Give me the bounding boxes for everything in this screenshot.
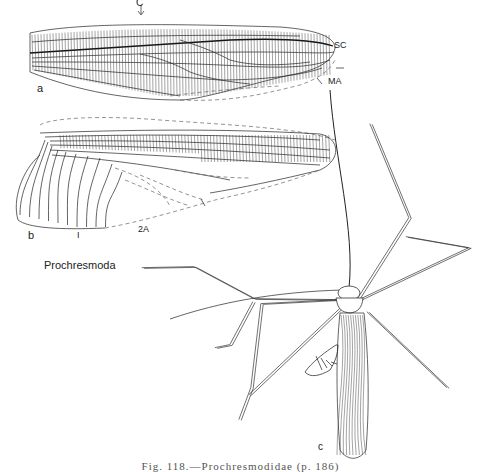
crossvein: [206, 29, 207, 95]
crossvein: [155, 29, 156, 95]
hindwing-reconstructed-margin: [105, 170, 320, 228]
crossvein: [121, 135, 122, 150]
crossvein: [70, 135, 71, 148]
crossvein: [102, 135, 103, 150]
crossvein: [107, 30, 108, 85]
crossvein: [179, 29, 180, 96]
crossvein: [60, 135, 61, 148]
crossvein: [89, 135, 90, 149]
crossvein: [191, 135, 192, 153]
wing-vein: [346, 315, 350, 455]
genus-label: Prochresmoda: [44, 259, 116, 271]
crossvein: [176, 29, 177, 96]
crossvein: [223, 135, 224, 162]
insect-abdomen: [305, 345, 338, 376]
anal-vein: [30, 142, 49, 217]
crossvein: [62, 33, 63, 77]
crossvein: [98, 31, 99, 84]
crossvein: [191, 29, 192, 96]
anal-vein: [77, 156, 88, 227]
crossvein: [173, 29, 174, 96]
crossvein: [140, 135, 141, 151]
anal-vein: [67, 154, 76, 225]
crossvein: [95, 31, 96, 83]
crossvein: [134, 135, 135, 151]
crossvein: [140, 29, 141, 92]
crossvein: [116, 30, 117, 87]
crossvein: [220, 135, 221, 162]
crossvein: [323, 34, 324, 75]
crossvein: [53, 33, 54, 74]
crossvein: [274, 135, 275, 162]
crossvein: [271, 135, 272, 162]
panel-label-c: c: [318, 442, 323, 452]
crossvein: [268, 135, 269, 162]
insect-antenna-short: [170, 290, 342, 319]
crossvein: [239, 135, 240, 162]
crossvein: [316, 135, 317, 162]
crossvein: [212, 29, 213, 94]
vein-label-subcosta: SC: [334, 41, 347, 50]
crossvein: [86, 31, 87, 81]
crossvein: [113, 30, 114, 86]
crossvein: [188, 135, 189, 153]
crossvein: [131, 30, 132, 91]
crossvein: [127, 135, 128, 151]
crossvein: [122, 30, 123, 89]
crossvein: [146, 135, 147, 151]
foreleg-left-tarsus: [215, 302, 253, 348]
crossvein: [161, 29, 162, 96]
foreleg-left: [144, 267, 341, 300]
crossvein: [98, 135, 99, 150]
crossvein: [320, 34, 321, 76]
crossvein: [227, 30, 228, 92]
crossvein: [137, 29, 138, 91]
crossvein: [281, 135, 282, 162]
crossvein: [182, 135, 183, 153]
crossvein: [105, 135, 106, 150]
crossvein: [130, 135, 131, 151]
crossvein: [221, 29, 222, 93]
crossvein: [169, 135, 170, 152]
crossvein: [175, 135, 176, 153]
crossvein: [143, 29, 144, 92]
wing-vein: [360, 315, 362, 455]
foreleg-left-tarsus: [217, 302, 255, 348]
crossvein: [76, 135, 77, 149]
crossvein: [239, 30, 240, 90]
crossvein: [203, 29, 204, 96]
crossvein: [319, 135, 320, 162]
crossvein: [242, 135, 243, 162]
wing-vein: [358, 315, 360, 455]
vein-label-media-anterior: MA: [328, 77, 342, 86]
crossvein: [322, 135, 323, 162]
crossvein: [185, 135, 186, 153]
panel-label-b: b: [28, 230, 34, 241]
midleg-right: [359, 237, 469, 300]
crossvein: [95, 135, 96, 149]
crossvein: [56, 33, 57, 75]
wing-vein: [363, 315, 366, 455]
crossvein: [230, 135, 231, 162]
anal-vein: [20, 140, 45, 215]
hindwing-anterior-margin: [40, 118, 335, 140]
insect-antenna-long: [330, 90, 350, 288]
crossvein: [255, 135, 256, 162]
foreleg-left: [142, 267, 339, 300]
crossvein: [143, 135, 144, 151]
crossvein: [210, 135, 211, 162]
crossvein: [197, 29, 198, 96]
crossvein: [172, 135, 173, 152]
crossvein: [162, 135, 163, 152]
hindwing-b: [16, 118, 336, 229]
crossvein: [317, 34, 318, 77]
crossvein: [284, 135, 285, 162]
crossvein: [118, 135, 119, 150]
crossvein: [178, 135, 179, 153]
crossvein: [59, 33, 60, 76]
figure-caption: Fig. 118.—Prochresmodidae (p. 186): [0, 460, 481, 472]
crossvein: [152, 29, 153, 94]
crossvein: [326, 35, 327, 75]
forewing-a: [30, 5, 344, 100]
